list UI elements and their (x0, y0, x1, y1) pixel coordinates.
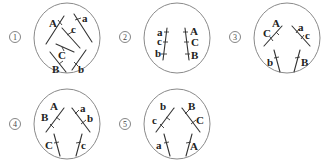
gene-label: c (157, 35, 162, 47)
gene-locus-mark (295, 57, 300, 58)
option-number-label: 1 (13, 33, 17, 42)
gene-locus-mark (59, 61, 63, 64)
gene-label: A (49, 17, 57, 29)
chromosome (163, 28, 167, 60)
gene-label: C (58, 49, 66, 61)
gene-label: B (191, 49, 199, 61)
cell-3: 3ACacbB (230, 3, 321, 73)
gene-label: C (263, 27, 271, 39)
gene-label: C (45, 139, 53, 151)
chromosome (185, 28, 189, 60)
gene-locus-mark (54, 142, 59, 143)
gene-label: a (82, 12, 88, 24)
gene-locus-mark (276, 32, 279, 35)
gene-label: C (196, 114, 204, 126)
gene-label: B (188, 100, 196, 112)
cell-2: 2acbACB (120, 3, 211, 73)
option-number-label: 2 (123, 33, 127, 42)
gene-label: a (80, 102, 86, 114)
gene-label: c (305, 29, 310, 41)
gene-label: B (41, 111, 49, 123)
gene-label: b (160, 100, 166, 112)
gene-label: b (155, 47, 161, 59)
gene-label: A (50, 100, 58, 112)
gene-label: C (191, 36, 199, 48)
gene-label: c (71, 23, 76, 35)
cell-4: 4ABabCc (10, 89, 101, 159)
gene-label: c (81, 139, 86, 151)
gene-label: A (190, 140, 198, 152)
gene-label: B (52, 63, 60, 75)
chromosome (294, 50, 300, 72)
cell-membrane (144, 3, 210, 73)
gene-label: A (272, 17, 280, 29)
option-number-label: 5 (123, 120, 127, 129)
gene-locus-mark (274, 57, 279, 58)
gene-label: a (298, 21, 304, 33)
gene-label: c (152, 114, 157, 126)
gene-label: b (78, 63, 84, 75)
cell-membrane (34, 3, 100, 73)
gene-label: a (156, 139, 162, 151)
option-number-label: 3 (233, 33, 237, 42)
gene-label: b (87, 112, 93, 124)
diagram-canvas: 1AacCBb2acbACB3ACacbB4ABabCc5bcBCaA (0, 0, 327, 166)
option-number-label: 4 (13, 120, 17, 129)
cell-5: 5bcBCaA (120, 89, 211, 159)
gene-locus-mark (164, 142, 169, 143)
gene-label: b (267, 56, 273, 68)
cell-membrane (34, 89, 100, 159)
chromosome (274, 50, 280, 72)
chromosome-diagram: 1AacCBb2acbACB3ACacbB4ABabCc5bcBCaA (0, 0, 327, 166)
cell-1: 1AacCBb (10, 3, 101, 75)
chromosome (54, 134, 60, 156)
gene-label: B (301, 56, 309, 68)
chromosome (164, 134, 170, 156)
